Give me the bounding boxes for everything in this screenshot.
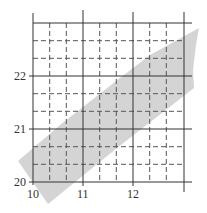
x-tick-label: 11	[77, 187, 89, 201]
x-tick-label: 10	[27, 187, 39, 201]
y-tick-label: 21	[14, 122, 26, 136]
x-tick-label: 12	[127, 187, 139, 201]
y-tick-label: 20	[14, 175, 26, 189]
shaded-band	[18, 28, 199, 204]
y-tick-label: 22	[14, 69, 26, 83]
chart: 22 21 20 10 11 12	[0, 0, 207, 213]
